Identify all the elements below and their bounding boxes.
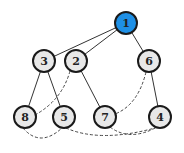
node-6: 6 bbox=[138, 50, 160, 72]
node-2: 2 bbox=[65, 50, 87, 72]
dashed-edge-6-7 bbox=[115, 72, 146, 114]
node-4: 4 bbox=[149, 106, 171, 128]
node-label: 1 bbox=[122, 17, 130, 30]
node-label: 5 bbox=[60, 111, 68, 124]
dashed-edges bbox=[23, 71, 157, 138]
node-label: 6 bbox=[145, 55, 153, 68]
dashed-edge-5-4 bbox=[66, 128, 155, 136]
node-3: 3 bbox=[33, 50, 55, 72]
dashed-edge-8-5 bbox=[23, 128, 62, 138]
node-label: 8 bbox=[21, 111, 29, 124]
nodes: 13268574 bbox=[14, 12, 171, 128]
node-8: 8 bbox=[14, 106, 36, 128]
node-label: 4 bbox=[156, 111, 164, 124]
tree-diagram: 13268574 bbox=[0, 0, 184, 153]
dashed-edge-7-4 bbox=[110, 127, 157, 135]
node-label: 2 bbox=[72, 55, 80, 68]
node-7: 7 bbox=[94, 106, 116, 128]
node-1: 1 bbox=[115, 12, 137, 34]
node-label: 7 bbox=[101, 111, 109, 124]
node-label: 3 bbox=[40, 55, 48, 68]
node-5: 5 bbox=[53, 106, 75, 128]
